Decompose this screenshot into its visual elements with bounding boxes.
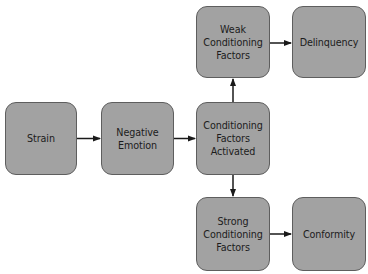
node-strain: Strain	[5, 102, 77, 175]
node-delinquency: Delinquency	[292, 6, 366, 78]
flowchart: Strain Negative Emotion Conditioning Fac…	[0, 0, 368, 274]
node-weak-conditioning-factors: Weak Conditioning Factors	[196, 6, 270, 78]
node-conditioning-factors-activated: Conditioning Factors Activated	[196, 102, 270, 175]
node-negative-emotion: Negative Emotion	[101, 102, 174, 175]
node-strong-conditioning-factors: Strong Conditioning Factors	[196, 197, 270, 271]
node-conformity: Conformity	[292, 197, 366, 271]
